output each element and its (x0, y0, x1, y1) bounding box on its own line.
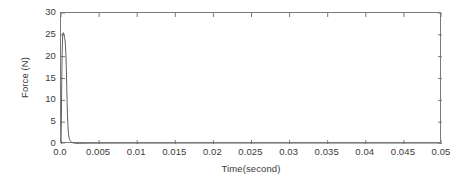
x-tick-label: 0.05 (432, 147, 451, 157)
x-tick-label: 0.01 (127, 147, 146, 157)
y-axis-title: Force (N) (18, 0, 32, 155)
force-series-line (61, 33, 442, 144)
x-tick-label: 0.02 (203, 147, 222, 157)
y-tick-label: 15 (34, 73, 56, 83)
plot-area (60, 12, 441, 143)
x-tick-label: 0.0 (53, 147, 67, 157)
y-tick-label: 25 (34, 29, 56, 39)
axis-tick-marks (61, 13, 442, 144)
y-tick-label: 20 (34, 51, 56, 61)
x-tick-label: 0.04 (355, 147, 374, 157)
plot-canvas (61, 13, 442, 144)
x-tick-label: 0.025 (238, 147, 262, 157)
x-tick-label: 0.035 (315, 147, 339, 157)
x-tick-label: 0.045 (391, 147, 415, 157)
figure: Force (N) 051015202530 0.00.0050.010.015… (0, 0, 466, 182)
y-tick-label: 5 (34, 116, 56, 126)
x-axis-tick-labels: 0.00.0050.010.0150.020.0250.030.0350.040… (0, 147, 466, 161)
x-tick-label: 0.005 (86, 147, 110, 157)
x-tick-label: 0.015 (162, 147, 186, 157)
y-tick-label: 10 (34, 94, 56, 104)
x-tick-label: 0.03 (279, 147, 298, 157)
y-tick-label: 30 (34, 7, 56, 17)
x-axis-title: Time(second) (60, 163, 442, 175)
